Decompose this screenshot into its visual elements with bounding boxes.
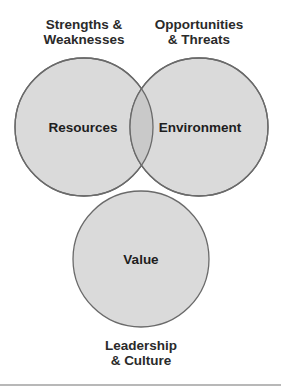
- venn-diagram: Strengths & Weaknesses Opportunities & T…: [0, 0, 281, 389]
- resources-label: Resources: [48, 120, 117, 135]
- threats-line: & Threats: [155, 32, 244, 47]
- strengths-weaknesses-label: Strengths & Weaknesses: [44, 17, 125, 47]
- opportunities-threats-label: Opportunities & Threats: [155, 17, 244, 47]
- environment-label: Environment: [159, 120, 242, 135]
- bottom-divider: [0, 384, 281, 386]
- value-label: Value: [123, 252, 158, 267]
- weaknesses-line: Weaknesses: [44, 32, 125, 47]
- leadership-line: Leadership: [105, 338, 177, 353]
- culture-line: & Culture: [105, 353, 177, 368]
- strengths-line: Strengths &: [44, 17, 125, 32]
- opportunities-line: Opportunities: [155, 17, 244, 32]
- leadership-culture-label: Leadership & Culture: [105, 338, 177, 368]
- venn-circles: [0, 0, 281, 389]
